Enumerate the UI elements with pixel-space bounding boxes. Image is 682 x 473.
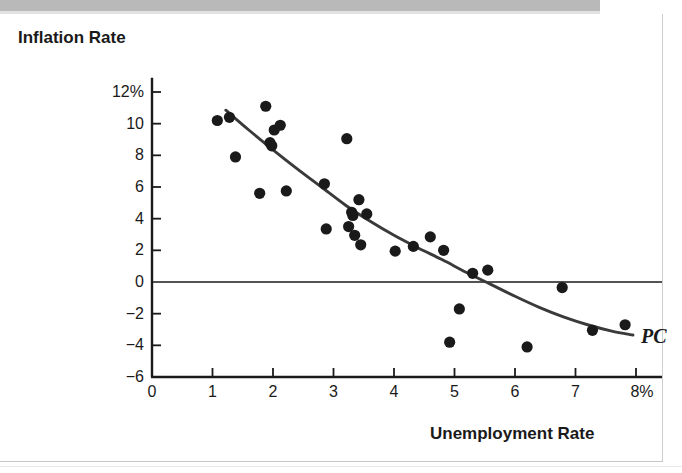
x-axis-tick-label: 2 [269, 383, 278, 401]
y-axis-tick-label: −2 [80, 305, 144, 323]
scatter-point [275, 120, 286, 131]
scatter-point [587, 325, 598, 336]
scatter-point [347, 210, 358, 221]
scatter-point [482, 265, 493, 276]
scatter-point [425, 231, 436, 242]
axes-group [151, 78, 662, 377]
y-axis-tick-label: 2 [80, 241, 144, 259]
scatter-point [341, 133, 352, 144]
x-axis-tick-label: 8% [630, 383, 653, 401]
fit-curve-group [226, 110, 633, 335]
scatter-point [260, 101, 271, 112]
scatter-point [444, 337, 455, 348]
scatter-point [319, 178, 330, 189]
scatter-point [522, 341, 533, 352]
y-axis-tick-label: −4 [80, 336, 144, 354]
phillips-curve-path [226, 110, 633, 335]
scatter-point [408, 241, 419, 252]
y-axis-tick-label: −6 [80, 368, 144, 386]
scatter-point [557, 282, 568, 293]
scatter-point [321, 223, 332, 234]
scatter-point [230, 151, 241, 162]
scatter-point [254, 188, 265, 199]
x-axis-tick-label: 3 [329, 383, 338, 401]
scatter-point [353, 194, 364, 205]
y-axis-tick-label: 6 [80, 178, 144, 196]
scatter-point [281, 185, 292, 196]
scatter-point [467, 268, 478, 279]
scatter-point [224, 112, 235, 123]
scatter-point [355, 239, 366, 250]
figure-page: Inflation Rate Unemployment Rate PC 12%1… [0, 0, 682, 473]
y-axis-tick-label: 8 [80, 146, 144, 164]
y-axis-tick-label: 0 [80, 273, 144, 291]
scatter-point [266, 140, 277, 151]
x-axis-tick-label: 5 [450, 383, 459, 401]
scatter-point [361, 208, 372, 219]
y-axis-tick-label: 4 [80, 210, 144, 228]
scatter-point [620, 319, 631, 330]
x-axis-tick-label: 6 [511, 383, 520, 401]
y-axis-tick-label: 12% [80, 83, 144, 101]
scatter-point [390, 246, 401, 257]
x-axis-tick-label: 7 [571, 383, 580, 401]
scatter-point [212, 115, 223, 126]
phillips-curve-plot [0, 0, 682, 473]
x-axis-tick-label: 1 [208, 383, 217, 401]
scatter-point [349, 230, 360, 241]
scatter-point [454, 303, 465, 314]
y-axis-tick-label: 10 [80, 115, 144, 133]
scatter-point [438, 245, 449, 256]
data-points-group [212, 101, 631, 353]
x-axis-tick-label: 4 [390, 383, 399, 401]
x-axis-tick-label: 0 [148, 383, 157, 401]
